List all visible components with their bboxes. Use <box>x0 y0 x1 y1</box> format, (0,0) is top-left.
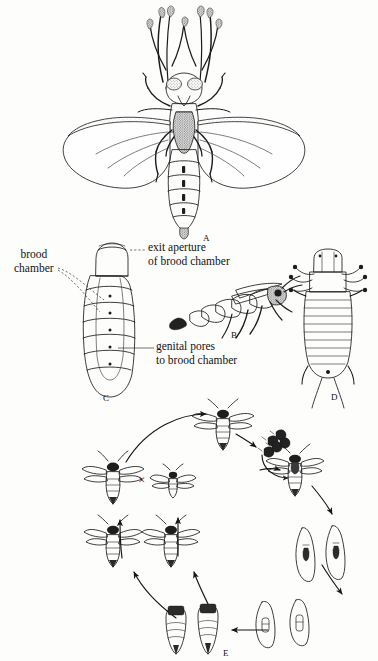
panel-b-adult-male-lateral <box>169 276 302 338</box>
panel-c-neotenic-female <box>58 243 154 397</box>
panel-letter-c: C <box>103 393 109 403</box>
leader-brood-chamber-1 <box>58 268 104 300</box>
panel-letter-b: B <box>231 330 237 340</box>
cycle-stage-emerging-adult-right <box>142 515 200 568</box>
cycle-stage-small-male <box>150 464 196 498</box>
figure-plate: brood chamber exit aperture of brood cha… <box>0 0 378 661</box>
arrow-host-to-parasitized <box>312 486 332 514</box>
panel-a-adult-male-dorsal <box>63 6 305 239</box>
cycle-stage-top-adult <box>192 399 254 451</box>
callout-brood-chamber: brood chamber <box>14 248 54 275</box>
genital-pores <box>109 295 112 366</box>
panel-letter-e: E <box>223 648 229 658</box>
cycle-stage-triungulin-larvae <box>258 430 290 457</box>
callout-genital-pores: genital pores to brood chamber <box>156 340 237 367</box>
cycle-stage-emerging-adult-left <box>84 515 142 568</box>
mating-cross-symbol: × <box>138 472 145 487</box>
arrow-to-top-adult <box>126 414 206 462</box>
panel-letter-a: A <box>203 233 210 243</box>
panel-e-life-cycle <box>82 399 345 655</box>
arrow-female-left-up <box>120 520 122 558</box>
panel-d-first-instar-larva <box>289 249 367 408</box>
cycle-stage-parasitized-larvae-upper <box>296 526 345 582</box>
cycle-stage-female-adult <box>82 451 144 505</box>
panel-letter-d: D <box>331 392 338 402</box>
arrow-adult-to-larvae <box>236 434 256 447</box>
cycle-stage-parasitized-larvae-lower <box>256 599 309 647</box>
callout-exit-aperture: exit aperture of brood chamber <box>148 241 230 268</box>
figure-illustration <box>0 0 378 661</box>
cycle-stage-host-pupae <box>166 604 218 655</box>
